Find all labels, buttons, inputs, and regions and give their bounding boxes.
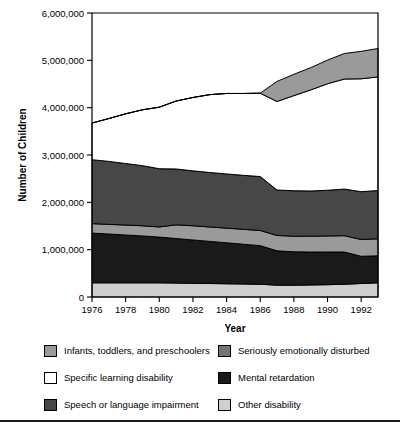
legend-swatch-specific-learning-disability [44, 372, 57, 384]
legend-swatch-speech-or-language-impairment [44, 399, 57, 411]
legend-label: Infants, toddlers, and preschoolers [64, 345, 210, 356]
legend-label: Mental retardation [238, 372, 315, 383]
legend-label: Seriously emotionally disturbed [238, 345, 369, 356]
x-axis-tick-label: 1986 [250, 304, 271, 315]
legend-swatch-other-disability [218, 399, 231, 411]
legend-item: Infants, toddlers, and preschoolers [44, 340, 210, 361]
x-axis-tick-label: 1992 [351, 304, 372, 315]
x-axis-tick-label: 1980 [149, 304, 170, 315]
legend-column-right: Seriously emotionally disturbed Mental r… [218, 340, 369, 421]
x-axis-tick-label: 1984 [216, 304, 237, 315]
x-axis-tick-label: 1978 [115, 304, 136, 315]
y-axis-tick-label: 2,000,000 [42, 197, 84, 208]
legend-item: Speech or language impairment [44, 394, 210, 415]
legend-item: Specific learning disability [44, 367, 210, 388]
y-axis-tick-label: 3,000,000 [42, 150, 84, 161]
stacked-area-chart: 01,000,0002,000,0003,000,0004,000,0005,0… [0, 0, 400, 335]
legend-label: Speech or language impairment [64, 399, 199, 410]
chart-area: 01,000,0002,000,0003,000,0004,000,0005,0… [0, 0, 400, 335]
x-axis-tick-label: 1976 [81, 304, 102, 315]
y-axis-tick-label: 1,000,000 [42, 244, 84, 255]
legend-item: Seriously emotionally disturbed [218, 340, 369, 361]
x-axis-title: Year [224, 323, 245, 334]
chart-legend: Infants, toddlers, and preschoolers Spec… [0, 340, 400, 415]
legend-swatch-seriously-emotionally-disturbed [218, 345, 231, 357]
y-axis-title: Number of Children [17, 108, 28, 201]
legend-swatch-infants-toddlers-and-preschoolers [44, 345, 57, 357]
legend-item: Other disability [218, 394, 369, 415]
legend-swatch-mental-retardation [218, 372, 231, 384]
y-axis-tick-label: 6,000,000 [42, 8, 84, 19]
x-axis-tick-label: 1990 [317, 304, 338, 315]
legend-label: Other disability [238, 399, 301, 410]
legend-label: Specific learning disability [64, 372, 173, 383]
legend-item: Mental retardation [218, 367, 369, 388]
x-axis-tick-label: 1988 [283, 304, 304, 315]
y-axis-tick-label: 5,000,000 [42, 55, 84, 66]
legend-column-left: Infants, toddlers, and preschoolers Spec… [44, 340, 210, 421]
x-axis-tick-label: 1982 [182, 304, 203, 315]
footer-divider [0, 420, 400, 422]
y-axis-tick-label: 4,000,000 [42, 102, 84, 113]
y-axis-tick-label: 0 [79, 292, 84, 303]
figure-root: 01,000,0002,000,0003,000,0004,000,0005,0… [0, 0, 400, 429]
